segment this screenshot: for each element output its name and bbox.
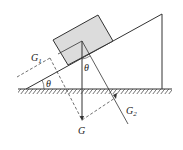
g2-direction-line xyxy=(82,41,128,124)
label-theta-base: θ xyxy=(46,78,51,89)
ground-hatch xyxy=(18,89,172,94)
label-G: G xyxy=(78,125,85,136)
label-G1: G1 xyxy=(31,52,42,65)
gravity-arrowhead xyxy=(80,116,84,121)
label-G2: G2 xyxy=(126,105,137,118)
incline-diagram: θ θ G1 G2 G xyxy=(0,0,183,150)
theta-arc-base xyxy=(42,80,44,89)
label-theta-top: θ xyxy=(84,62,89,73)
g2-dashed-line xyxy=(82,98,115,120)
block xyxy=(53,15,113,65)
